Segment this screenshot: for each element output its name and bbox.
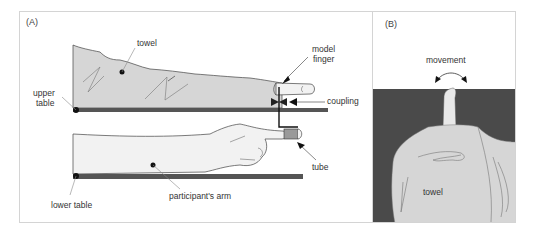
upper-table-label-line1: upper: [33, 88, 55, 98]
tube-icon: [284, 129, 298, 139]
panel-b-illustration: [373, 12, 516, 223]
model-finger-label-line1: model: [312, 44, 335, 54]
panel-b: (B) movement towel: [372, 11, 516, 223]
participants-arm-label: participant's arm: [169, 191, 231, 201]
towel-shape: [392, 125, 516, 223]
model-finger-label-line2: finger: [313, 54, 334, 64]
towel-label-b: towel: [423, 187, 443, 197]
upper-table-label-line2: table: [36, 98, 54, 108]
towel-label: towel: [137, 38, 157, 48]
panel-b-label: (B): [385, 19, 397, 29]
model-finger-icon: [276, 83, 315, 95]
lower-table-bar: [73, 174, 303, 179]
finger-shape: [443, 88, 456, 127]
panel-a: (A) towel model finger coupling upper ta…: [19, 11, 373, 223]
panel-a-label: (A): [26, 17, 38, 27]
movement-arrow-icon: [438, 73, 464, 79]
towel-shape: [73, 45, 282, 108]
coupling-label: coupling: [327, 96, 359, 106]
tube-label: tube: [312, 162, 329, 172]
upper-table-bar: [73, 108, 328, 112]
participants-arm-shape: [73, 124, 287, 174]
movement-label: movement: [426, 55, 466, 65]
lower-table-label: lower table: [51, 200, 92, 210]
